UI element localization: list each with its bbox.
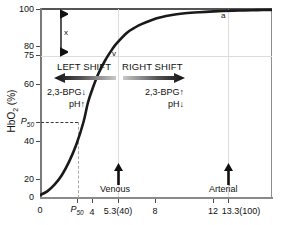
left-shift-arrow: [54, 72, 116, 84]
y-axis-title: HbO2 (%): [7, 71, 21, 151]
right-shift-arrow: [123, 72, 185, 84]
y-tick-label-20: 20: [6, 175, 34, 184]
x-tick-5-3: [118, 199, 119, 203]
x-tick-label-13-3: 13.3(100): [201, 207, 281, 216]
right-shift-factor-bpg: 2,3-BPG↑: [145, 87, 184, 98]
left-shift-factor-bpg: 2,3-BPG↓: [47, 87, 86, 98]
y-axis-title-unit: (%): [6, 90, 17, 108]
y-axis-title-sub: 2: [12, 108, 19, 112]
x-tick-4: [92, 199, 93, 203]
span-arrow-label-x: x: [64, 27, 68, 38]
arterial-label: Arterial: [209, 185, 238, 194]
left-shift-factor-ph: pH↑: [69, 99, 85, 110]
venous-label: Venous: [100, 185, 130, 194]
arterial-callout-arrow: [223, 163, 234, 185]
left-shift-title: LEFT SHIFT: [57, 62, 111, 72]
y-axis-title-main: HbO: [6, 112, 17, 133]
y-p50-sub: 50: [27, 121, 34, 128]
x-tick-13-3: [228, 199, 229, 203]
arterial-point-label: a: [221, 12, 225, 20]
venous-point-label: v: [112, 50, 116, 58]
x-tick-label-8: 8: [143, 207, 167, 216]
oxyhemoglobin-dissociation-chart: 100 80 75 60 P50 40 20 0 HbO2 (%) P50 4 …: [0, 0, 287, 225]
x-tick-12: [213, 199, 214, 203]
right-shift-title: RIGHT SHIFT: [122, 62, 183, 72]
y-tick-label-75: 75: [6, 51, 34, 60]
x-tick-label-5-3: 5.3(40): [93, 207, 143, 216]
y-tick-label-0: 0: [6, 193, 34, 202]
venous-callout-arrow: [113, 163, 124, 185]
x-tick-p50: [77, 199, 78, 203]
y-tick-label-100: 100: [6, 5, 34, 14]
x-tick-8: [155, 199, 156, 203]
x-tick-label-0: 0: [29, 206, 51, 215]
right-shift-factor-ph: pH↓: [168, 99, 184, 110]
